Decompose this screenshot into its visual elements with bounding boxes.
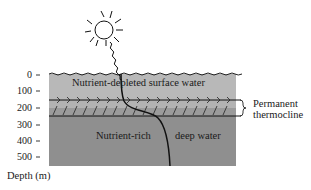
diagram-graphic [0,0,311,190]
depth-tick-300: 300 [2,120,32,130]
depth-tick-marks [36,75,40,157]
depth-tick-0: 0 [2,70,32,80]
thermocline-bracket [240,100,246,116]
depth-tick-500: 500 [2,152,32,162]
deep-water-label-left: Nutrient-rich [96,131,151,142]
ocean-diagram: 0 100 200 300 400 500 Depth (m) Nutrient… [0,0,311,190]
surface-water-label: Nutrient-depleted surface water [72,78,205,89]
depth-axis-label: Depth (m) [7,171,50,182]
depth-tick-200: 200 [2,103,32,113]
depth-tick-100: 100 [2,86,32,96]
depth-tick-400: 400 [2,136,32,146]
thermocline-label-line2: thermocline [253,110,303,121]
deep-water-label-right: deep water [175,131,221,142]
sun-icon [85,11,123,46]
thermocline-label-line1: Permanent [253,99,298,110]
